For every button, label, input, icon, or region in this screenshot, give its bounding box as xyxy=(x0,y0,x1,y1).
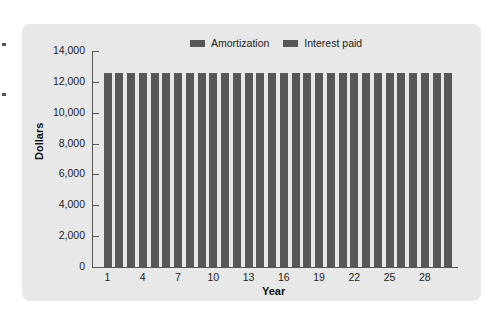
bar-year-6 xyxy=(162,73,170,267)
legend-item-interest: Interest paid xyxy=(283,37,362,49)
legend-item-amortization: Amortization xyxy=(190,37,269,49)
x-axis-title: Year xyxy=(262,285,285,297)
x-tick-label: 10 xyxy=(201,271,225,283)
y-tick xyxy=(92,205,99,206)
x-tick-label: 4 xyxy=(131,271,155,283)
chart-legend: Amortization Interest paid xyxy=(190,37,362,49)
bar-year-23 xyxy=(362,73,370,267)
bar-year-24 xyxy=(374,73,382,267)
bar-year-26 xyxy=(397,73,405,267)
bar-year-15 xyxy=(268,73,276,267)
bar-year-16 xyxy=(280,73,288,267)
legend-label: Interest paid xyxy=(304,37,362,49)
y-tick xyxy=(92,51,99,52)
x-tick-label: 16 xyxy=(272,271,296,283)
x-tick-label: 13 xyxy=(237,271,261,283)
y-tick xyxy=(92,174,99,175)
bar-year-12 xyxy=(233,73,241,267)
x-tick-label: 7 xyxy=(166,271,190,283)
x-tick-label: 28 xyxy=(413,271,437,283)
bar-year-28 xyxy=(421,73,429,267)
bar-year-14 xyxy=(256,73,264,267)
y-tick xyxy=(92,236,99,237)
bar-year-3 xyxy=(127,73,135,267)
legend-swatch-icon xyxy=(190,40,205,47)
bar-year-4 xyxy=(139,73,147,267)
legend-label: Amortization xyxy=(211,37,269,49)
y-tick-label: 14,000 xyxy=(35,44,85,56)
x-tick-label: 1 xyxy=(96,271,120,283)
bar-year-8 xyxy=(186,73,194,267)
x-tick-label: 25 xyxy=(378,271,402,283)
bar-year-10 xyxy=(209,73,217,267)
bar-year-13 xyxy=(245,73,253,267)
bar-year-2 xyxy=(115,73,123,267)
clipped-text-fragment xyxy=(2,93,6,96)
bar-year-7 xyxy=(174,73,182,267)
y-tick xyxy=(92,144,99,145)
bar-year-22 xyxy=(350,73,358,267)
bar-year-11 xyxy=(221,73,229,267)
bar-year-27 xyxy=(409,73,417,267)
y-tick-label: 2,000 xyxy=(35,229,85,241)
bar-year-5 xyxy=(151,73,159,267)
bar-year-18 xyxy=(303,73,311,267)
y-tick-label: 0 xyxy=(35,260,85,272)
y-tick xyxy=(92,82,99,83)
y-tick-label: 8,000 xyxy=(35,137,85,149)
x-axis xyxy=(92,267,458,268)
y-tick-label: 6,000 xyxy=(35,167,85,179)
legend-swatch-icon xyxy=(283,40,298,47)
bar-year-1 xyxy=(104,73,112,267)
bar-year-30 xyxy=(444,73,452,267)
clipped-text-fragment xyxy=(2,43,6,46)
x-tick-label: 19 xyxy=(307,271,331,283)
y-tick-label: 12,000 xyxy=(35,75,85,87)
x-tick-label: 22 xyxy=(342,271,366,283)
bar-year-9 xyxy=(198,73,206,267)
y-tick-label: 4,000 xyxy=(35,198,85,210)
y-tick xyxy=(92,113,99,114)
bar-year-19 xyxy=(315,73,323,267)
bar-year-29 xyxy=(433,73,441,267)
y-tick-label: 10,000 xyxy=(35,106,85,118)
bar-year-17 xyxy=(292,73,300,267)
bar-year-21 xyxy=(339,73,347,267)
bar-year-20 xyxy=(327,73,335,267)
bar-year-25 xyxy=(386,73,394,267)
